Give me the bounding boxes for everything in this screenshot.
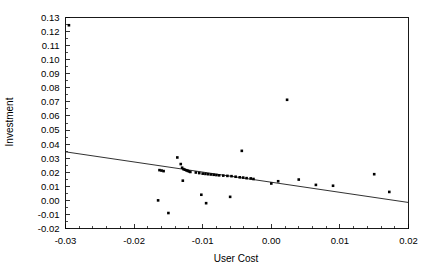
data-point xyxy=(215,174,218,177)
data-point xyxy=(218,174,221,177)
data-point xyxy=(212,173,215,176)
x-tick-label: -0.03 xyxy=(55,235,77,246)
data-point xyxy=(195,171,198,174)
data-point xyxy=(176,156,179,159)
x-tick-label: 0.01 xyxy=(331,235,350,246)
data-point xyxy=(241,150,244,153)
data-point xyxy=(167,212,170,215)
data-point xyxy=(332,184,335,187)
data-point xyxy=(249,177,252,180)
data-point xyxy=(157,199,160,202)
chart-canvas: -0.02-0.010.000.010.020.030.040.050.060.… xyxy=(0,0,428,272)
y-tick-label: 0.02 xyxy=(41,167,60,178)
data-point xyxy=(252,178,255,181)
x-tick-label: -0.01 xyxy=(192,235,214,246)
x-tick-label: -0.02 xyxy=(123,235,145,246)
data-point xyxy=(162,170,165,173)
data-point xyxy=(245,177,248,180)
data-point xyxy=(286,98,289,101)
y-axis-title: Investment xyxy=(4,97,15,146)
x-tick-label: 0.00 xyxy=(262,235,281,246)
x-tick-label: 0.02 xyxy=(399,235,418,246)
y-tick-label: 0.01 xyxy=(41,181,60,192)
data-point xyxy=(207,173,210,176)
data-point xyxy=(179,163,182,166)
y-tick-label: 0.12 xyxy=(41,26,60,37)
y-tick-label: -0.01 xyxy=(38,209,60,220)
data-point xyxy=(229,196,232,199)
y-tick-label: 0.05 xyxy=(41,124,60,135)
data-point xyxy=(373,173,376,176)
figure-background xyxy=(0,0,428,272)
data-point xyxy=(277,180,280,183)
data-point xyxy=(226,175,229,178)
y-tick-label: 0.13 xyxy=(41,12,60,23)
data-point xyxy=(270,182,273,185)
data-point xyxy=(297,178,300,181)
data-point xyxy=(201,172,204,175)
data-point xyxy=(222,174,225,177)
y-tick-label: 0.11 xyxy=(42,40,60,51)
data-point xyxy=(230,175,233,178)
data-point xyxy=(200,193,203,196)
y-tick-label: 0.07 xyxy=(41,96,60,107)
data-point xyxy=(234,175,237,178)
y-tick-label: 0.04 xyxy=(41,139,60,150)
x-axis-title: User Cost xyxy=(214,253,259,264)
y-tick-label: 0.00 xyxy=(41,195,60,206)
y-tick-label: 0.09 xyxy=(41,68,60,79)
data-point xyxy=(204,173,207,176)
y-tick-label: 0.10 xyxy=(41,54,60,65)
y-tick-label: 0.06 xyxy=(41,110,60,121)
data-point xyxy=(198,172,201,175)
data-point xyxy=(182,179,185,182)
y-tick-label: -0.02 xyxy=(38,223,60,234)
data-point xyxy=(242,176,245,179)
data-point xyxy=(210,173,213,176)
data-point xyxy=(238,176,241,179)
data-point xyxy=(68,24,71,27)
y-tick-label: 0.08 xyxy=(41,82,60,93)
data-point xyxy=(189,171,192,174)
y-tick-label: 0.03 xyxy=(41,153,60,164)
data-point xyxy=(315,184,318,187)
scatter-plot-figure: -0.02-0.010.000.010.020.030.040.050.060.… xyxy=(0,0,428,272)
data-point xyxy=(205,202,208,205)
data-point xyxy=(388,191,391,194)
